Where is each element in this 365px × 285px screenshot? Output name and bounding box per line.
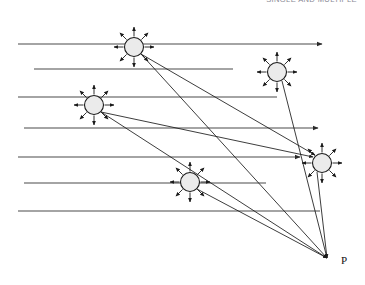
scattered-rays-group: [101, 54, 327, 258]
scatter-spoke-arrow: [176, 189, 183, 196]
scattering-centre: [257, 52, 297, 92]
scatter-spoke-arrow: [284, 58, 291, 65]
scatterer-circle: [125, 38, 144, 57]
scatter-spoke-arrow: [120, 54, 127, 61]
scatter-spoke-arrow: [284, 79, 291, 86]
scattering-figure: SINGLE AND MULTIPLE P: [0, 0, 365, 285]
scattered-ray: [101, 112, 313, 157]
scatter-spoke-arrow: [263, 58, 270, 65]
scatterer-circle: [268, 63, 287, 82]
scatter-spoke-arrow: [120, 33, 127, 40]
scatter-spoke-arrow: [197, 168, 204, 175]
scattered-ray: [197, 189, 327, 258]
scatterer-circle: [313, 154, 332, 173]
scatterer-circle: [85, 96, 104, 115]
scattering-centre: [114, 27, 154, 67]
scatter-spoke-arrow: [263, 79, 270, 86]
scattering-centre: [74, 85, 114, 125]
scattered-ray: [317, 172, 327, 258]
scatter-spoke-arrow: [329, 170, 336, 177]
scatter-spoke-arrow: [308, 149, 315, 156]
scatter-spoke-arrow: [329, 149, 336, 156]
scatter-spoke-arrow: [80, 112, 87, 119]
scatter-spoke-arrow: [197, 189, 204, 196]
observation-point-label-p: P: [341, 255, 347, 266]
scatter-spoke-arrow: [141, 33, 148, 40]
scattering-centre: [302, 143, 342, 183]
scattering-diagram-canvas: [0, 0, 365, 285]
scatter-spoke-arrow: [308, 170, 315, 177]
scatterer-circle: [181, 173, 200, 192]
scattering-centre: [170, 162, 210, 202]
scatter-spoke-arrow: [176, 168, 183, 175]
